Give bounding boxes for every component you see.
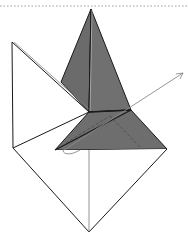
pyramid-right-face (89, 9, 131, 112)
geometric-diagram (0, 0, 188, 246)
